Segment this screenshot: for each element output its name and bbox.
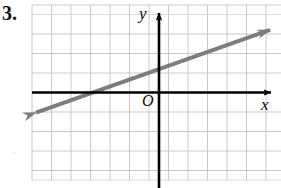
origin-label: O xyxy=(142,93,154,109)
y-axis-label: y xyxy=(139,5,147,22)
worksheet-page: 3. xyxy=(0,0,281,188)
coordinate-graph xyxy=(0,0,281,188)
x-axis-label: x xyxy=(261,96,269,113)
coordinate-plane-svg xyxy=(0,0,281,188)
